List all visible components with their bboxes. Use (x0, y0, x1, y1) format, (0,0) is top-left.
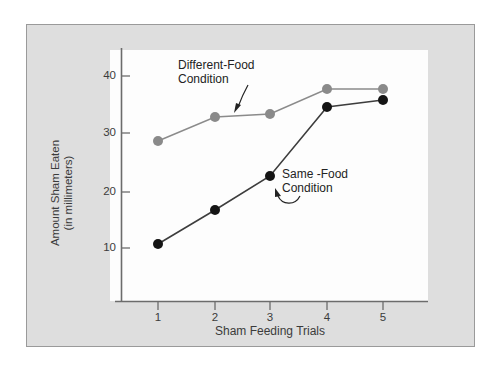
annotation-same-food: Same -Food Condition (282, 167, 348, 195)
same-food-arrowhead (275, 188, 281, 197)
chart-page: 40 30 20 10 1 2 3 4 5 Sham Feeding Trial… (0, 0, 501, 370)
same-food-arrow (278, 196, 300, 203)
data-point (265, 171, 275, 181)
different-food-arrowhead (234, 103, 241, 113)
y-tick-label-10: 10 (92, 241, 116, 253)
data-point (322, 84, 332, 94)
annotation-different-food: Different-Food Condition (178, 58, 254, 86)
y-tick-label-30: 30 (92, 126, 116, 138)
data-point (378, 84, 388, 94)
x-tick-label-4: 4 (317, 311, 337, 323)
x-tick-label-3: 3 (260, 311, 280, 323)
y-axis-title: Amount Sham Eaten (in millimeters) (49, 113, 75, 273)
chart-graphic (0, 0, 501, 370)
different-food-arrow (238, 85, 248, 107)
x-tick-marks (158, 302, 383, 311)
data-point (265, 109, 275, 119)
data-point (378, 95, 388, 105)
y-axis-title-line2: (in millimeters) (62, 113, 75, 273)
series-different-food (153, 84, 388, 146)
data-point (153, 239, 163, 249)
y-tick-marks (122, 76, 131, 248)
x-axis-title: Sham Feeding Trials (160, 324, 380, 338)
data-point (153, 136, 163, 146)
x-tick-label-2: 2 (205, 311, 225, 323)
data-point (210, 112, 220, 122)
data-point (322, 102, 332, 112)
y-tick-label-20: 20 (92, 185, 116, 197)
x-tick-label-1: 1 (148, 311, 168, 323)
y-tick-label-40: 40 (92, 69, 116, 81)
x-tick-label-5: 5 (373, 311, 393, 323)
data-point (210, 205, 220, 215)
y-axis-title-line1: Amount Sham Eaten (49, 113, 62, 273)
